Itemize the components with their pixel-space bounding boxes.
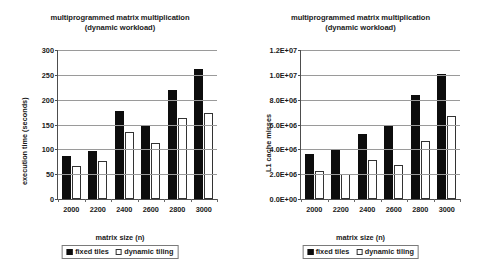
- x-tick-mark: [58, 199, 59, 202]
- x-axis-ticks-left: 200022002400260028003000: [58, 199, 217, 214]
- gridline: [301, 174, 460, 175]
- y-tick-label: 150: [42, 120, 54, 129]
- x-tick: 2400: [354, 199, 381, 214]
- x-tick-label: 2400: [354, 205, 381, 214]
- x-tick-label: 2600: [138, 205, 165, 214]
- gridline: [58, 125, 217, 126]
- chart-title-left: multiprogrammed matrix multiplication (d…: [0, 13, 240, 33]
- y-tick-label: 200: [42, 95, 54, 104]
- x-tick-label: 3000: [434, 205, 461, 214]
- y-tick-label: 250: [42, 70, 54, 79]
- legend-item: fixed tiles: [67, 247, 109, 256]
- x-tick-mark: [434, 199, 435, 202]
- x-tick: 2600: [381, 199, 408, 214]
- x-tick-mark: [164, 199, 165, 202]
- bar-fixed-tiles: [194, 69, 203, 199]
- gridline: [301, 75, 460, 76]
- y-tick-mark: [298, 50, 301, 51]
- gridline: [58, 149, 217, 150]
- bar-dynamic-tiling: [368, 160, 377, 199]
- bar-dynamic-tiling: [341, 174, 350, 199]
- x-tick: 2200: [328, 199, 355, 214]
- x-tick-mark: [217, 199, 218, 202]
- y-tick-mark: [298, 199, 301, 200]
- x-tick-mark: [111, 199, 112, 202]
- x-tick-label: 3000: [191, 205, 218, 214]
- y-tick-label: 50: [46, 170, 54, 179]
- x-tick-mark: [328, 199, 329, 202]
- x-tick-label: 2600: [381, 205, 408, 214]
- bar-fixed-tiles: [62, 156, 71, 199]
- plot-area-right: 200022002400260028003000 0.0E+002.0E+064…: [300, 50, 460, 200]
- y-tick-label: 4.0E+06: [270, 145, 297, 154]
- x-tick: 2800: [407, 199, 434, 214]
- bar-fixed-tiles: [305, 154, 314, 199]
- x-tick-mark: [85, 199, 86, 202]
- x-tick-label: 2000: [58, 205, 85, 214]
- x-tick-label: 2800: [164, 205, 191, 214]
- x-tick: 2000: [58, 199, 85, 214]
- legend-label: dynamic tiling: [124, 247, 173, 256]
- x-tick-mark: [381, 199, 382, 202]
- x-tick-mark: [138, 199, 139, 202]
- x-tick: 2400: [111, 199, 138, 214]
- gridline: [58, 100, 217, 101]
- bar-dynamic-tiling: [178, 118, 187, 199]
- y-tick-mark: [55, 100, 58, 101]
- x-tick-label: 2000: [301, 205, 328, 214]
- legend-left: fixed tilesdynamic tiling: [62, 245, 179, 259]
- y-tick-mark: [55, 199, 58, 200]
- chart-panel-l1-cache-misses: multiprogrammed matrix multiplication (d…: [240, 0, 481, 271]
- y-tick-mark: [55, 125, 58, 126]
- x-tick: 2800: [164, 199, 191, 214]
- x-tick-mark: [301, 199, 302, 202]
- gridline: [301, 100, 460, 101]
- x-tick-mark: [460, 199, 461, 202]
- gridline: [58, 174, 217, 175]
- plot-area-left: 200022002400260028003000 050100150200250…: [57, 50, 217, 200]
- x-axis-label-left: matrix size (n): [0, 233, 240, 242]
- y-tick-mark: [298, 100, 301, 101]
- x-axis-label-right: matrix size (n): [240, 233, 481, 242]
- y-tick-mark: [298, 125, 301, 126]
- x-tick-mark: [407, 199, 408, 202]
- legend-label: dynamic tiling: [365, 247, 414, 256]
- y-tick-mark: [55, 149, 58, 150]
- filled-square-icon: [307, 249, 313, 255]
- bar-fixed-tiles: [141, 125, 150, 199]
- bar-dynamic-tiling: [151, 143, 160, 199]
- chart-title-right: multiprogrammed matrix multiplication (d…: [240, 13, 481, 33]
- x-tick: 3000: [191, 199, 218, 214]
- x-tick-label: 2800: [407, 205, 434, 214]
- x-tick-label: 2400: [111, 205, 138, 214]
- gridline: [301, 125, 460, 126]
- gridline: [58, 50, 217, 51]
- y-tick-label: 8.0E+06: [270, 95, 297, 104]
- y-axis-label-left: execution time (seconds): [20, 97, 29, 185]
- y-tick-mark: [55, 75, 58, 76]
- legend-item: fixed tiles: [307, 247, 349, 256]
- gridline: [301, 149, 460, 150]
- x-tick: 3000: [434, 199, 461, 214]
- gridline: [301, 50, 460, 51]
- legend-item: dynamic tiling: [356, 247, 414, 256]
- x-tick-label: 2200: [85, 205, 112, 214]
- bar-fixed-tiles: [437, 74, 446, 199]
- y-tick-mark: [55, 174, 58, 175]
- y-tick-label: 0: [50, 195, 54, 204]
- bar-dynamic-tiling: [204, 113, 213, 199]
- x-tick-mark: [354, 199, 355, 202]
- dual-bar-chart-figure: multiprogrammed matrix multiplication (d…: [0, 0, 481, 271]
- legend-label: fixed tiles: [316, 247, 350, 256]
- filled-square-icon: [67, 249, 73, 255]
- bar-dynamic-tiling: [394, 165, 403, 199]
- y-tick-label: 100: [42, 145, 54, 154]
- hollow-square-icon: [116, 249, 122, 255]
- bar-dynamic-tiling: [315, 171, 324, 199]
- bar-dynamic-tiling: [72, 166, 81, 199]
- x-tick: 2200: [85, 199, 112, 214]
- bar-fixed-tiles: [358, 134, 367, 199]
- gridline: [58, 75, 217, 76]
- y-tick-label: 300: [42, 46, 54, 55]
- legend-item: dynamic tiling: [116, 247, 174, 256]
